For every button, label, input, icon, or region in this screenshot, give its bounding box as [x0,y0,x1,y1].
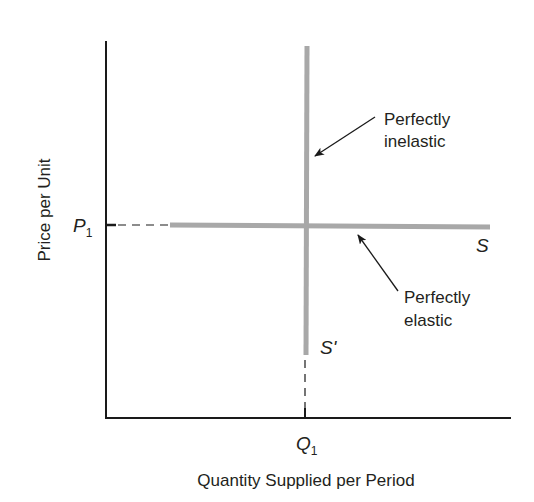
elastic-annotation-line2: elastic [404,311,453,330]
inelastic-annotation-line1: Perfectly [384,110,451,129]
supply-curve-elastic-s [170,225,490,227]
inelastic-arrow [315,117,375,156]
q1-label: Q1 [296,433,318,458]
inelastic-annotation-line2: inelastic [384,132,446,151]
p1-label: P1 [73,215,93,240]
elastic-arrow [358,235,398,291]
chart-canvas: Price per Unit Quantity Supplied per Per… [0,0,534,502]
s-prime-label: S' [320,337,338,358]
x-axis-title: Quantity Supplied per Period [197,471,414,490]
elastic-annotation-line1: Perfectly [404,288,471,307]
s-label: S [476,235,489,256]
y-axis-title: Price per Unit [35,158,54,261]
supply-curve-inelastic-s-prime [306,46,307,355]
